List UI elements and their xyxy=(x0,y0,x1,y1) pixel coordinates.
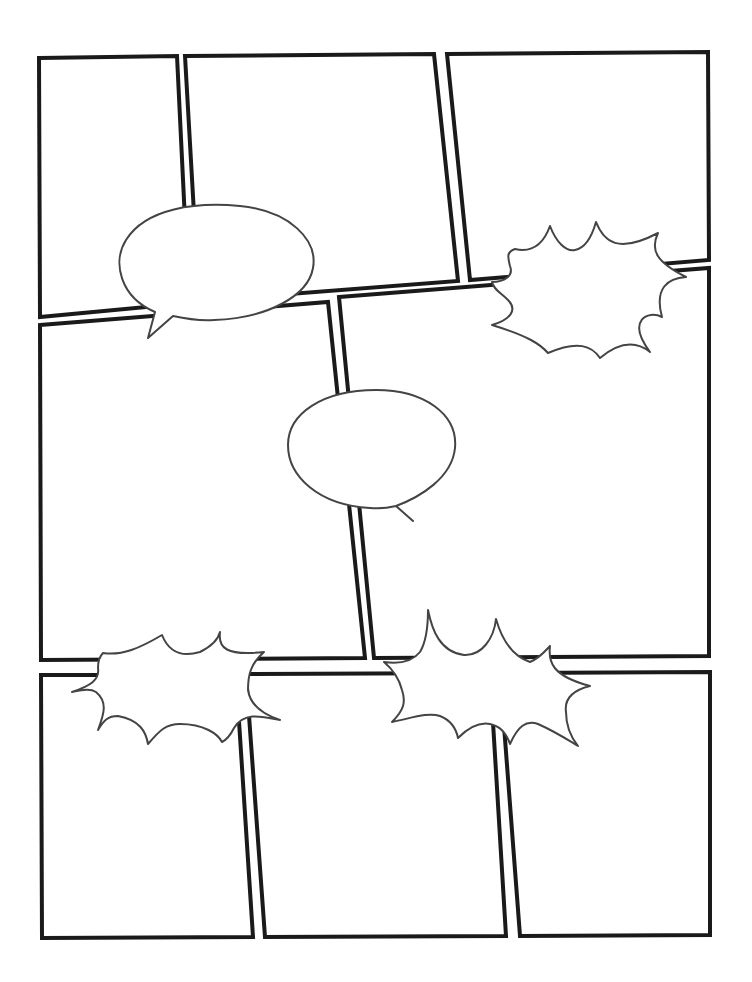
comic-canvas xyxy=(0,0,752,982)
panel-3 xyxy=(447,52,709,280)
comic-page xyxy=(0,0,752,982)
